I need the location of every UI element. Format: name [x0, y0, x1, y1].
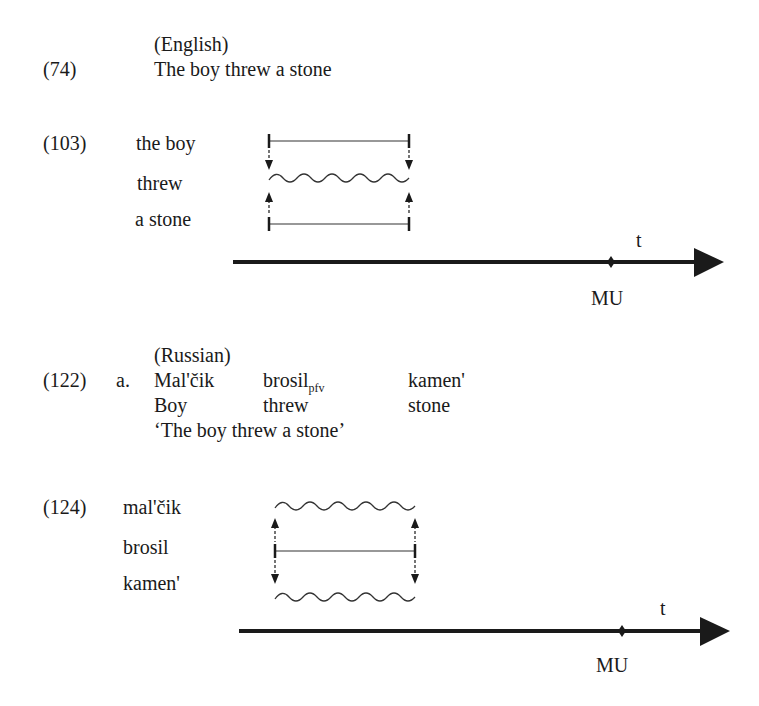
time-axis-arrow [233, 248, 724, 277]
bounded-interval-brosil [275, 544, 415, 558]
english-diagram [233, 134, 724, 277]
arrow-up-right [405, 192, 413, 214]
arrow-up-right [411, 518, 419, 542]
arrow-down-right [405, 150, 413, 170]
arrow-down-right [411, 560, 419, 584]
wavy-interval-threw [269, 174, 409, 182]
arrow-up-left [265, 192, 273, 214]
time-axis-arrow-2 [239, 617, 730, 646]
bounded-interval-the-boy [269, 134, 409, 148]
moment-of-utterance-point-2 [618, 625, 626, 637]
moment-of-utterance-point [607, 256, 615, 268]
arrow-up-left [271, 518, 279, 542]
wavy-interval-kamen [275, 593, 415, 601]
arrow-down-left [265, 150, 273, 170]
wavy-interval-malcik [275, 502, 415, 510]
bounded-interval-a-stone [269, 217, 409, 231]
diagram-graphics [0, 0, 759, 706]
russian-diagram [239, 502, 730, 646]
arrow-down-left [271, 560, 279, 584]
